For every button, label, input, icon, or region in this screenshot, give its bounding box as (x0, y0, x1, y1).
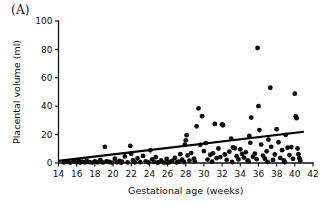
data-point (187, 158, 192, 163)
data-point (295, 146, 300, 151)
x-tick-label: 32 (216, 169, 227, 179)
data-point (200, 114, 205, 119)
data-point (274, 127, 279, 132)
x-tick-label: 30 (198, 169, 210, 179)
data-point (248, 140, 253, 145)
x-axis-title: Gestational age (weeks) (128, 185, 243, 196)
data-point (255, 46, 260, 51)
x-tick-label: 38 (271, 169, 283, 179)
scatter-plot: 0204060801001416182022242628303234363840… (0, 0, 327, 204)
data-point (230, 160, 235, 165)
x-tick-label: 20 (107, 169, 119, 179)
data-point (141, 154, 146, 159)
data-point (232, 146, 237, 151)
data-point (259, 142, 264, 147)
data-point (224, 158, 229, 163)
data-point (291, 156, 296, 161)
data-point (178, 152, 183, 157)
trend-line (59, 132, 304, 161)
data-point (289, 145, 294, 150)
data-point (292, 91, 297, 96)
data-point (243, 150, 248, 155)
data-point (246, 159, 251, 164)
data-point (194, 124, 199, 129)
data-point (210, 159, 215, 164)
data-point (227, 149, 232, 154)
data-point (218, 155, 223, 160)
data-point (294, 116, 299, 121)
data-point (212, 122, 217, 127)
data-point (192, 159, 197, 164)
data-point (128, 144, 133, 149)
x-tick-label: 28 (180, 169, 192, 179)
data-point (165, 160, 170, 165)
data-point (211, 151, 216, 156)
y-tick-label: 100 (35, 16, 52, 26)
trend-line-layer (59, 132, 304, 161)
data-point (196, 106, 201, 111)
data-point (269, 144, 274, 149)
data-point (265, 159, 270, 164)
x-tick-label: 24 (144, 169, 156, 179)
data-point (287, 153, 292, 158)
data-point (222, 152, 227, 157)
data-point (249, 115, 254, 120)
data-point (282, 160, 287, 165)
y-tick-label: 40 (41, 101, 53, 111)
data-point (257, 128, 262, 133)
data-point (172, 155, 177, 160)
data-point (125, 160, 130, 165)
data-point (146, 160, 151, 165)
data-point (268, 85, 273, 90)
figure-panel-a: (A) 020406080100141618202224262830323436… (0, 0, 327, 204)
data-point (272, 152, 277, 157)
data-point (138, 160, 143, 165)
y-tick-label: 60 (41, 73, 53, 83)
data-point (184, 133, 189, 138)
data-point (183, 138, 188, 143)
data-point (102, 144, 107, 149)
data-point (153, 155, 158, 160)
data-point (271, 157, 276, 162)
data-point (122, 154, 127, 159)
data-point (202, 149, 207, 154)
data-point (189, 151, 194, 156)
data-point (236, 157, 241, 162)
x-tick-label: 36 (253, 169, 265, 179)
data-point (256, 104, 261, 109)
x-tick-label: 18 (89, 169, 101, 179)
data-point (252, 151, 257, 156)
data-point (296, 152, 301, 157)
x-tick-label: 26 (162, 169, 174, 179)
data-point (155, 160, 160, 165)
x-tick-label: 14 (53, 169, 65, 179)
data-point (298, 158, 303, 163)
x-tick-label: 40 (289, 169, 301, 179)
data-point (221, 123, 226, 128)
x-tick-label: 16 (71, 169, 83, 179)
data-point (216, 146, 221, 151)
y-tick-label: 0 (47, 158, 53, 168)
y-tick-label: 80 (41, 45, 53, 55)
y-axis-title: Placental volume (ml) (11, 40, 22, 144)
x-tick-label: 42 (307, 169, 318, 179)
data-point (254, 157, 259, 162)
data-point (276, 140, 281, 145)
data-point (238, 147, 243, 152)
data-point (280, 148, 285, 153)
data-point (205, 157, 210, 162)
x-tick-label: 22 (125, 169, 136, 179)
y-tick-label: 20 (41, 130, 53, 140)
data-point (119, 160, 124, 165)
data-point (264, 149, 269, 154)
data-point (266, 137, 271, 142)
x-tick-label: 34 (235, 169, 247, 179)
data-point (182, 160, 187, 165)
